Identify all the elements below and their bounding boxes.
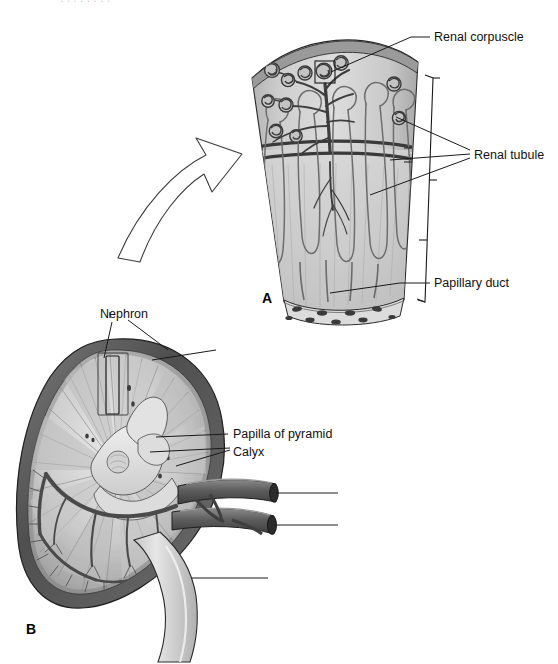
- glomerulus: [298, 66, 312, 80]
- label-calyx: Calyx: [233, 445, 265, 459]
- glomerulus: [290, 130, 302, 142]
- glomerulus: [281, 73, 294, 86]
- label-renal-tubule: Renal tubule: [474, 148, 544, 162]
- kidney-anatomy-figure: Renal corpuscle Renal tubule Papillary d…: [0, 0, 558, 664]
- label-papilla-of-pyramid: Papilla of pyramid: [233, 427, 332, 441]
- pelvis-lumen: [107, 451, 129, 473]
- glomerulus: [279, 98, 293, 112]
- glomerulus: [265, 63, 280, 78]
- glomerulus: [269, 124, 283, 138]
- glomerulus: [316, 63, 332, 79]
- glomerulus: [262, 95, 274, 107]
- label-papillary-duct: Papillary duct: [434, 276, 510, 290]
- magnification-arrow: [118, 138, 242, 262]
- label-nephron: Nephron: [100, 307, 148, 321]
- panel-a-bracket: [417, 75, 440, 302]
- panel-letter-a: A: [262, 290, 272, 306]
- label-renal-corpuscle: Renal corpuscle: [434, 30, 524, 44]
- panel-b-group: [16, 312, 338, 662]
- glomerulus: [387, 77, 401, 91]
- panel-letter-b: B: [26, 621, 36, 637]
